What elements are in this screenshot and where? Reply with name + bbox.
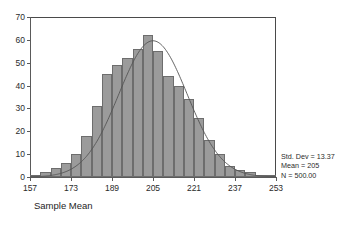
x-axis-tick-label: 173 [56,183,86,193]
y-axis-tick [27,154,31,155]
statistics-legend: Std. Dev = 13.37 Mean = 205 N = 500.00 [281,152,335,180]
y-axis-tick-label: 0 [1,173,25,181]
legend-std-dev: Std. Dev = 13.37 [281,152,335,161]
x-axis-tick-label: 221 [179,183,209,193]
y-axis-tick [27,177,31,178]
x-axis-tick-label: 157 [15,183,45,193]
x-axis-tick [153,177,154,181]
y-axis-tick-label: 60 [1,36,25,44]
histogram-chart: 010203040506070 157173189205221237253 St… [0,0,347,228]
plot-area [30,17,276,177]
normal-curve-overlay [30,17,276,177]
y-axis-tick [27,108,31,109]
y-axis-labels: 010203040506070 [0,0,25,228]
x-axis-title: Sample Mean [34,200,93,211]
y-axis-tick [27,63,31,64]
x-axis-tick [71,177,72,181]
x-axis-tick [112,177,113,181]
y-axis-tick [27,86,31,87]
x-axis-tick-label: 237 [220,183,250,193]
x-axis-tick [235,177,236,181]
y-axis-tick [27,131,31,132]
y-axis-tick-label: 20 [1,127,25,135]
y-axis-tick-label: 10 [1,150,25,158]
x-axis-tick [276,177,277,181]
y-axis-tick-label: 50 [1,59,25,67]
x-axis-tick-label: 253 [261,183,291,193]
x-axis-tick-label: 189 [97,183,127,193]
y-axis-tick-label: 30 [1,104,25,112]
y-axis-tick-label: 70 [1,13,25,21]
y-axis-tick [27,17,31,18]
y-axis-tick-label: 40 [1,82,25,90]
x-axis-tick-label: 205 [138,183,168,193]
legend-mean: Mean = 205 [281,161,335,170]
x-axis-tick [194,177,195,181]
y-axis-tick [27,40,31,41]
legend-n: N = 500.00 [281,171,335,180]
